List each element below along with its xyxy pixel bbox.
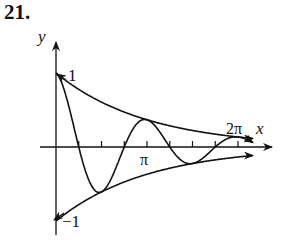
lower-envelope-curve bbox=[56, 156, 253, 222]
y-axis-label: y bbox=[36, 27, 46, 46]
y-tick-label-minus-1: −1 bbox=[62, 212, 80, 231]
x-axis-ticks bbox=[79, 141, 238, 147]
upper-envelope-curve bbox=[56, 73, 253, 139]
damped-oscillation-curve bbox=[56, 73, 253, 192]
y-tick-label-1: 1 bbox=[68, 66, 77, 85]
x-tick-label-2pi: 2π bbox=[226, 120, 242, 137]
damped-oscillation-graph: y x 1 −1 π 2π bbox=[0, 0, 282, 240]
x-axis-label: x bbox=[255, 119, 264, 138]
x-tick-label-pi: π bbox=[140, 151, 148, 168]
